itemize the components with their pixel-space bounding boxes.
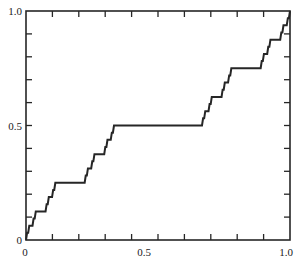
x-axis-label-right: 1.0 xyxy=(273,247,299,258)
plot-area xyxy=(0,0,301,265)
cantor-function-chart: 1.0 0.5 0 0 0.5 1.0 xyxy=(0,0,301,265)
x-axis-label-left: 0 xyxy=(15,247,35,258)
y-axis-label-mid: 0.5 xyxy=(0,121,22,132)
y-axis-label-top: 1.0 xyxy=(0,6,22,17)
x-axis-label-mid: 0.5 xyxy=(130,247,158,258)
cantor-staircase-curve xyxy=(26,11,290,240)
y-axis-label-bottom: 0 xyxy=(0,235,22,246)
